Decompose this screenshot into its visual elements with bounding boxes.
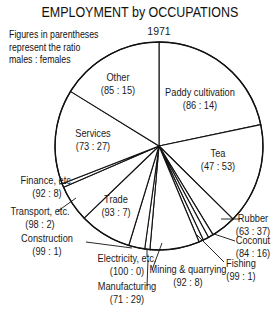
label-name: Fishing [226, 257, 256, 269]
label-name: Coconut [236, 234, 271, 246]
label-ratio: (92 : 8) [173, 276, 202, 288]
label-ratio: (93 : 7) [101, 206, 130, 218]
label-ratio: (99 : 1) [226, 270, 255, 282]
label-ratio: (71 : 29) [110, 293, 144, 305]
label-trade: Trade(93 : 7) [101, 193, 130, 218]
label-ratio: (47 : 53) [201, 160, 235, 172]
label-name: Rubber [238, 212, 269, 224]
label-mining-quarrying: Mining & quarrying(92 : 8) [150, 263, 227, 288]
label-ratio: (85 : 15) [101, 84, 135, 96]
label-name: Other [106, 71, 130, 83]
label-rubber: Rubber(63 : 37) [236, 212, 270, 237]
label-ratio: (100 : 0) [110, 265, 144, 277]
label-name: Services [75, 127, 110, 139]
label-ratio: (92 : 8) [32, 187, 61, 199]
label-name: Trade [104, 193, 128, 205]
label-name: Transport, etc. [10, 205, 69, 217]
label-ratio: (73 : 27) [76, 140, 110, 152]
label-transport-etc: Transport, etc.(98 : 2) [10, 205, 69, 230]
label-name: Construction [21, 232, 73, 244]
leader-line [214, 234, 235, 241]
label-fishing: Fishing(99 : 1) [226, 257, 256, 282]
label-name: Finance, etc. [21, 174, 74, 186]
label-name: Tea [211, 147, 226, 159]
label-coconut: Coconut(84 : 16) [236, 234, 271, 259]
label-manufacturing: Manufacturing(71 : 29) [98, 280, 156, 305]
label-ratio: (98 : 2) [25, 218, 54, 230]
label-services: Services(73 : 27) [75, 127, 110, 152]
label-construction: Construction(99 : 1) [21, 232, 73, 257]
label-name: Manufacturing [98, 280, 156, 292]
label-ratio: (99 : 1) [32, 245, 61, 257]
chart-subtitle: 1971 [147, 25, 171, 37]
label-ratio: (86 : 14) [183, 99, 217, 111]
pie-chart: 1971 Other(85 : 15)Paddy cultivation(86 … [0, 0, 278, 319]
label-name: Paddy cultivation [165, 86, 235, 98]
label-name: Electricity, etc. [98, 252, 157, 264]
leader-line [197, 235, 224, 262]
label-name: Mining & quarrying [150, 263, 227, 275]
